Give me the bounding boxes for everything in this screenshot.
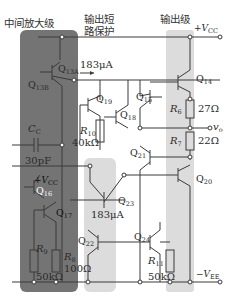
- q13b-label: Q13B: [28, 80, 49, 92]
- short-protect-stage-label-2: 路保护: [84, 26, 114, 37]
- r8-label: R8: [64, 252, 76, 264]
- r6-value: 27Ω: [198, 104, 219, 114]
- r10-label: R10: [80, 126, 96, 138]
- r6-label: R6: [170, 104, 182, 116]
- current-label-q13a: 183μA: [80, 60, 113, 70]
- r10-value: 40kΩ: [72, 138, 99, 148]
- q13a-label: Q13A: [58, 64, 79, 76]
- q20-label: Q20: [196, 174, 212, 186]
- cc-value: 30pF: [25, 156, 51, 166]
- output-stage-label: 输出级: [160, 14, 190, 25]
- q23-label: Q23: [118, 196, 134, 208]
- r8-value: 100Ω: [64, 264, 91, 274]
- middle-amp-stage-label: 中间放大级: [4, 18, 54, 29]
- q24-label: Q24: [134, 232, 150, 244]
- r11-value: 50kΩ: [148, 272, 175, 282]
- cc-label: CC: [28, 124, 41, 136]
- vcc-label: +VCC: [194, 24, 218, 35]
- output-node-label: vo: [213, 122, 223, 134]
- r7-value: 22Ω: [198, 136, 219, 146]
- r9-label: R9: [36, 244, 48, 256]
- q16-label: Q16: [36, 186, 52, 198]
- current-label-q23: 183μA: [91, 210, 124, 220]
- q15-label: Q15: [136, 92, 152, 104]
- r7-label: R7: [170, 136, 182, 148]
- r11-label: R11: [148, 256, 164, 268]
- r9-value: 50kΩ: [36, 272, 63, 282]
- circuit-diagram: [0, 0, 232, 302]
- q22-label: Q22: [78, 236, 94, 248]
- q14-label: Q14: [196, 74, 212, 86]
- q17-label: Q17: [56, 208, 72, 220]
- vee-label: −VEE: [196, 270, 220, 281]
- q19-label: Q19: [96, 94, 112, 106]
- q18-label: Q18: [120, 110, 136, 122]
- q21-label: Q21: [130, 148, 146, 160]
- short-protect-stage-label-1: 输出短: [84, 14, 114, 25]
